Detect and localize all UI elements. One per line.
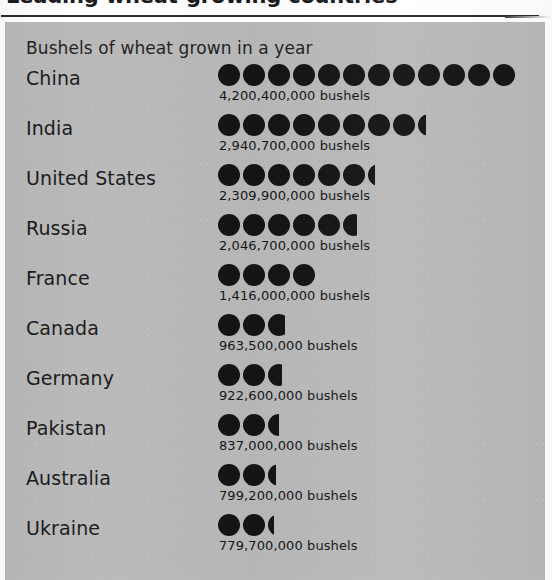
wheat-unit-disc	[318, 164, 340, 186]
chart-row: Germany922,600,000 bushels	[5, 362, 545, 412]
wheat-unit-icon	[218, 264, 240, 286]
wheat-unit-disc	[268, 214, 290, 236]
wheat-partial-unit-icon	[343, 214, 357, 236]
chart-row: Canada963,500,000 bushels	[5, 312, 545, 362]
pictogram-symbol-group	[218, 414, 282, 438]
wheat-unit-disc	[343, 114, 365, 136]
wheat-unit-disc	[243, 514, 265, 536]
row-value-label: 799,200,000 bushels	[219, 488, 358, 503]
row-value-label: 4,200,400,000 bushels	[219, 88, 370, 103]
wheat-unit-disc	[218, 464, 240, 486]
pictogram-symbol-group	[218, 114, 429, 138]
wheat-unit-icon	[243, 414, 265, 436]
wheat-unit-icon	[218, 414, 240, 436]
country-label: China	[26, 67, 81, 89]
pictogram-symbol-group	[218, 464, 279, 488]
chart-subtitle: Bushels of wheat grown in a year	[26, 38, 313, 58]
country-label: Ukraine	[26, 517, 100, 539]
wheat-unit-disc	[493, 64, 515, 86]
wheat-unit-disc	[318, 114, 340, 136]
wheat-unit-disc	[293, 164, 315, 186]
wheat-unit-disc	[393, 114, 415, 136]
wheat-unit-icon	[293, 64, 315, 86]
wheat-unit-icon	[343, 164, 365, 186]
wheat-unit-icon	[243, 114, 265, 136]
pictogram-symbol-group	[218, 264, 318, 288]
wheat-unit-disc	[243, 314, 265, 336]
wheat-unit-disc	[318, 64, 340, 86]
wheat-unit-icon	[268, 164, 290, 186]
wheat-unit-disc	[343, 64, 365, 86]
row-value-label: 1,416,000,000 bushels	[219, 288, 370, 303]
wheat-unit-icon	[418, 64, 440, 86]
pictogram-symbol-group	[218, 214, 360, 238]
wheat-unit-icon	[218, 514, 240, 536]
wheat-unit-icon	[268, 114, 290, 136]
pictogram-symbol-group	[218, 164, 378, 188]
wheat-unit-icon	[318, 214, 340, 236]
wheat-unit-disc	[243, 214, 265, 236]
wheat-unit-icon	[268, 264, 290, 286]
country-label: Australia	[26, 467, 111, 489]
wheat-unit-disc	[243, 414, 265, 436]
wheat-unit-disc	[268, 64, 290, 86]
wheat-unit-icon	[243, 64, 265, 86]
country-label: United States	[26, 167, 156, 189]
wheat-unit-disc	[343, 214, 357, 236]
country-label: Russia	[26, 217, 88, 239]
wheat-unit-disc	[368, 64, 390, 86]
chart-row: India2,940,700,000 bushels	[5, 112, 545, 162]
wheat-unit-disc	[268, 314, 285, 336]
row-value-label: 2,940,700,000 bushels	[219, 138, 370, 153]
wheat-unit-disc	[293, 114, 315, 136]
chart-row: China4,200,400,000 bushels	[5, 62, 545, 112]
wheat-unit-disc	[243, 114, 265, 136]
row-value-label: 779,700,000 bushels	[219, 538, 358, 553]
wheat-unit-disc	[443, 64, 465, 86]
title-divider-rule	[0, 14, 552, 18]
figure-title: Leading wheat-growing countries	[0, 0, 552, 14]
wheat-unit-icon	[493, 64, 515, 86]
wheat-unit-disc	[243, 464, 265, 486]
wheat-unit-icon	[293, 164, 315, 186]
wheat-unit-disc	[218, 314, 240, 336]
row-value-label: 2,046,700,000 bushels	[219, 238, 370, 253]
wheat-unit-icon	[368, 114, 390, 136]
wheat-unit-disc	[268, 464, 276, 486]
wheat-unit-disc	[293, 214, 315, 236]
wheat-unit-disc	[318, 214, 340, 236]
wheat-unit-icon	[218, 64, 240, 86]
chart-row: United States2,309,900,000 bushels	[5, 162, 545, 212]
wheat-unit-disc	[218, 114, 240, 136]
row-value-label: 2,309,900,000 bushels	[219, 188, 370, 203]
wheat-unit-disc	[243, 364, 265, 386]
row-value-label: 837,000,000 bushels	[219, 438, 358, 453]
wheat-unit-disc	[418, 114, 426, 136]
wheat-unit-icon	[243, 464, 265, 486]
pictogram-symbol-group	[218, 64, 518, 88]
wheat-unit-icon	[268, 214, 290, 236]
wheat-partial-unit-icon	[268, 314, 285, 336]
wheat-unit-icon	[368, 64, 390, 86]
wheat-unit-icon	[243, 214, 265, 236]
wheat-unit-icon	[218, 464, 240, 486]
wheat-unit-icon	[293, 114, 315, 136]
wheat-unit-disc	[268, 514, 274, 536]
wheat-unit-icon	[343, 114, 365, 136]
wheat-unit-icon	[218, 364, 240, 386]
chart-row: Pakistan837,000,000 bushels	[5, 412, 545, 462]
wheat-unit-disc	[218, 414, 240, 436]
country-label: Canada	[26, 317, 99, 339]
wheat-unit-icon	[293, 264, 315, 286]
wheat-unit-disc	[218, 64, 240, 86]
wheat-unit-disc	[218, 364, 240, 386]
wheat-partial-unit-icon	[418, 114, 426, 136]
wheat-unit-disc	[218, 214, 240, 236]
wheat-unit-icon	[318, 164, 340, 186]
chart-row: Australia799,200,000 bushels	[5, 462, 545, 512]
chart-row: Russia2,046,700,000 bushels	[5, 212, 545, 262]
pictogram-symbol-group	[218, 314, 288, 338]
country-label: France	[26, 267, 90, 289]
country-label: India	[26, 117, 73, 139]
pictogram-symbol-group	[218, 364, 285, 388]
